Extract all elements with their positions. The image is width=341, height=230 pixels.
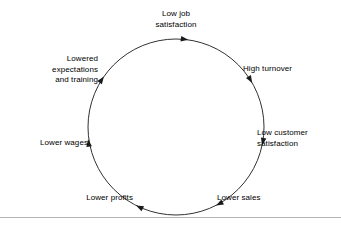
- cycle-node-lowered-expectations-and-training: Lowered expectations and training: [22, 54, 98, 86]
- cycle-node-lower-profits: Lower profits: [57, 193, 133, 204]
- footer-divider: [0, 217, 341, 218]
- arrowhead-lowered-expectations: [97, 75, 106, 84]
- diagram-page: Low job satisfaction High turnover Low c…: [0, 0, 341, 230]
- cycle-node-low-job-satisfaction: Low job satisfaction: [131, 9, 221, 30]
- arrowhead-lower-profits: [135, 203, 144, 211]
- cycle-circle: [88, 39, 264, 215]
- cycle-node-high-turnover: High turnover: [243, 64, 335, 75]
- cycle-node-lower-sales: Lower sales: [217, 193, 287, 204]
- arrowhead-low-job-satisfaction: [180, 36, 188, 43]
- cycle-node-lower-wages: Lower wages: [10, 138, 88, 149]
- cycle-node-low-customer-satisfaction: Low customer satisfaction: [257, 128, 339, 149]
- cycle-diagram-canvas: [0, 0, 341, 230]
- arrowhead-high-turnover: [246, 75, 255, 84]
